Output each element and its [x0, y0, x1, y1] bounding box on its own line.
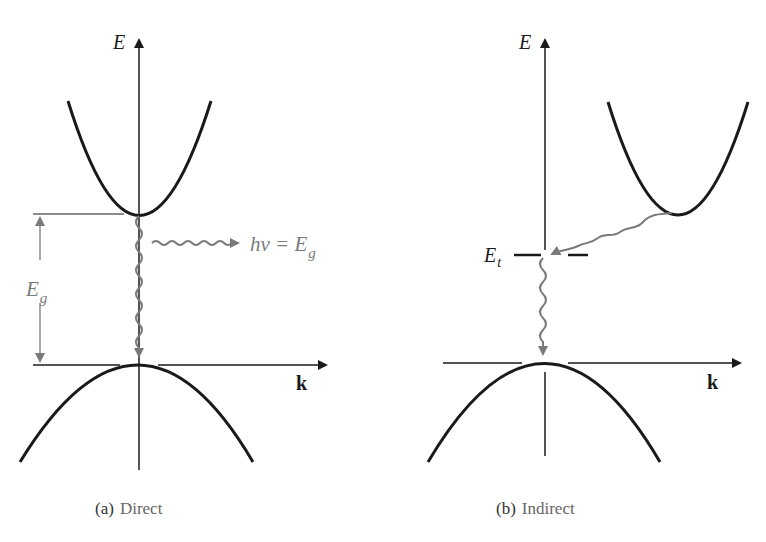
band-gap-label: Eg	[25, 277, 48, 306]
photon-wave-direct	[152, 241, 238, 245]
photon-energy-label-sub: g	[308, 245, 316, 261]
photon-energy-label: hν = Eg	[250, 232, 316, 261]
caption-direct-tag: (a)	[95, 499, 114, 518]
capture-wave-to-trap	[552, 213, 672, 254]
trap-level-label-main: E	[483, 244, 496, 266]
caption-indirect: (b)Indirect	[496, 499, 575, 518]
band-diagram-canvas: E k Eg hν = Eg (a)Direct E k Et (b)Indir…	[0, 0, 766, 542]
recombination-wave-indirect	[540, 258, 546, 354]
conduction-band-indirect	[608, 102, 748, 215]
energy-axis-label-direct: E	[112, 31, 125, 53]
k-axis-label-direct: k	[296, 372, 308, 394]
panel-indirect	[428, 40, 748, 462]
caption-direct-text: Direct	[120, 499, 163, 518]
energy-axis-label-indirect: E	[518, 31, 531, 53]
photon-energy-label-main: hν = E	[250, 232, 307, 256]
trap-level-label: Et	[483, 244, 502, 270]
trap-level-label-sub: t	[497, 255, 502, 270]
caption-indirect-tag: (b)	[496, 499, 516, 518]
k-axis-label-indirect: k	[707, 371, 719, 393]
caption-indirect-text: Indirect	[522, 499, 575, 518]
valence-band-direct	[20, 365, 253, 462]
valence-band-indirect	[428, 364, 660, 463]
caption-direct: (a)Direct	[95, 499, 163, 518]
band-gap-label-sub: g	[40, 290, 48, 306]
band-gap-label-main: E	[25, 277, 39, 301]
